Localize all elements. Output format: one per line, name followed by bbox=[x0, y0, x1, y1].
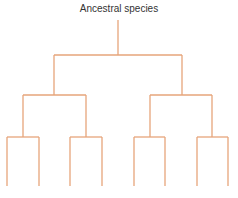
phylogenetic-tree bbox=[0, 0, 238, 198]
